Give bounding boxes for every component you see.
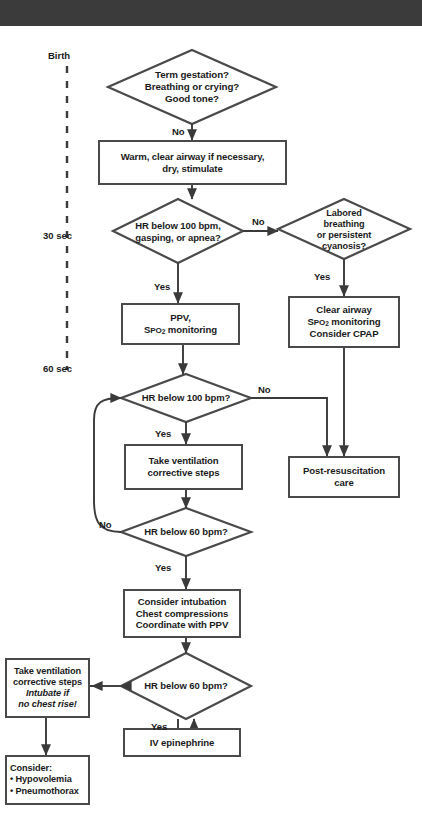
postresus-line-2: care	[293, 477, 395, 489]
corrective-intubate-line-4: no chest rise!	[10, 699, 85, 710]
edge-label-yes-hr60-a: Yes	[155, 562, 171, 573]
consider-line-3: • Pneumothorax	[10, 786, 85, 797]
process-consider-complications: Consider: • Hypovolemia • Pneumothorax	[5, 755, 90, 805]
clear-airway-line-3: Consider CPAP	[293, 328, 395, 340]
process-clear-airway: Clear airway SPO2 monitoring Consider CP…	[288, 296, 400, 348]
ppv-line-1: PPV,	[126, 312, 235, 324]
corrective-line-2: corrective steps	[129, 467, 238, 479]
decision-hr60-a	[121, 508, 251, 556]
decision-hr60-b	[121, 653, 251, 719]
epinephrine-line-1: IV epinephrine	[128, 737, 236, 749]
clear-airway-line-2: SPO2 monitoring	[293, 316, 395, 328]
process-warm-clear-airway: Warm, clear airway if necessary, dry, st…	[98, 140, 287, 185]
edge-label-yes-hr100: Yes	[155, 428, 171, 439]
process-post-resuscitation-care: Post-resuscitation care	[288, 456, 400, 498]
edge-label-yes-hr100-apnea: Yes	[154, 281, 170, 292]
timeline-label-60sec: 60 sec	[43, 363, 72, 374]
corrective-line-1: Take ventilation	[129, 455, 238, 467]
decision-assess	[108, 50, 276, 124]
postresus-line-1: Post-resuscitation	[293, 465, 395, 477]
consider-line-2: • Hypovolemia	[10, 774, 85, 785]
process-corrective-steps-intubate: Take ventilation corrective steps Intuba…	[5, 658, 90, 718]
process-iv-epinephrine: IV epinephrine	[123, 728, 241, 757]
edge-label-yes-labored: Yes	[314, 271, 330, 282]
timeline-label-30sec: 30 sec	[43, 230, 72, 241]
warm-line-1: Warm, clear airway if necessary,	[103, 151, 282, 163]
process-corrective-steps: Take ventilation corrective steps	[124, 444, 243, 490]
process-consider-intubation: Consider intubation Chest compressions C…	[123, 589, 241, 638]
clear-airway-line-1: Clear airway	[293, 304, 395, 316]
decision-hr100-apnea	[113, 199, 243, 263]
edge-label-no-hr60-a: No	[99, 519, 112, 530]
corrective-intubate-line-1: Take ventilation	[10, 666, 85, 677]
edge-label-yes-hr60-b: Yes	[151, 721, 167, 732]
warm-line-2: dry, stimulate	[103, 163, 282, 175]
decision-labored	[278, 199, 410, 259]
process-ppv: PPV, SPO2 monitoring	[121, 303, 240, 345]
intubation-line-2: Chest compressions	[128, 608, 236, 620]
timeline-label-birth: Birth	[48, 50, 70, 61]
intubation-line-1: Consider intubation	[128, 596, 236, 608]
intubation-line-3: Coordinate with PPV	[128, 619, 236, 631]
consider-line-1: Consider:	[10, 763, 85, 774]
edge-label-no-hr100: No	[258, 384, 271, 395]
decision-hr100	[121, 374, 251, 422]
ppv-line-2: SPO2 monitoring	[126, 324, 235, 336]
edge-label-no-hr100-apnea: No	[252, 216, 265, 227]
edge-label-no-assess: No	[172, 126, 185, 137]
corrective-intubate-line-2: corrective steps	[10, 677, 85, 688]
corrective-intubate-line-3: Intubate if	[10, 688, 85, 699]
